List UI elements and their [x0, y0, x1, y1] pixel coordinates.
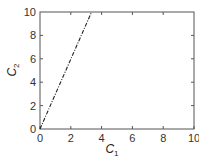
chart: 0 2 4 6 8 10 0 2 4 6 8 10 C1 C2 — [0, 0, 199, 156]
y-ticks — [40, 35, 194, 105]
y-tick-label: 6 — [30, 53, 36, 65]
x-ticks — [40, 12, 194, 129]
data-line — [40, 12, 92, 129]
y-tick-label: 2 — [30, 100, 36, 112]
y-tick-label: 10 — [24, 6, 36, 18]
x-axis-label: C1 — [105, 142, 119, 156]
x-tick-label: 0 — [37, 132, 43, 144]
x-tick-label: 2 — [68, 132, 74, 144]
x-tick-label: 10 — [188, 132, 199, 144]
y-axis-label: C2 — [5, 63, 21, 77]
x-tick-label: 8 — [160, 132, 166, 144]
y-tick-labels: 0 2 4 6 8 10 — [24, 6, 36, 135]
plot-frame — [40, 12, 194, 129]
x-tick-label: 6 — [129, 132, 135, 144]
y-tick-label: 4 — [30, 76, 36, 88]
x-tick-labels: 0 2 4 6 8 10 — [37, 132, 199, 144]
y-tick-label: 8 — [30, 29, 36, 41]
x-tick-label: 4 — [99, 132, 105, 144]
y-tick-label: 0 — [30, 123, 36, 135]
